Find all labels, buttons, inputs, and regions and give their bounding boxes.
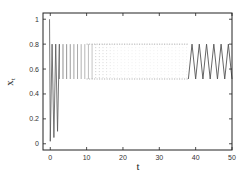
chart: 01020304050 00.20.40.60.81 t xt <box>0 0 248 173</box>
y-tick-label: 0 <box>35 140 39 147</box>
transient-line <box>50 19 60 141</box>
x-tick-label: 0 <box>48 154 52 161</box>
y-tick-label: 0.8 <box>29 41 39 48</box>
y-tick-label: 0.2 <box>29 115 39 122</box>
y-tick-label: 0.6 <box>29 66 39 73</box>
x-tick-label: 40 <box>192 154 200 161</box>
y-axis-ticks: 00.20.40.60.81 <box>29 16 232 148</box>
y-tick-label: 1 <box>35 16 39 23</box>
plot-lines <box>50 19 232 141</box>
zigzag-line <box>188 44 232 79</box>
x-tick-label: 20 <box>119 154 127 161</box>
x-tick-label: 50 <box>228 154 236 161</box>
x-axis-ticks: 01020304050 <box>48 13 236 161</box>
y-tick-label: 0.4 <box>29 90 39 97</box>
y-axis-label: xt <box>3 78 17 86</box>
plot-frame <box>43 13 232 150</box>
x-tick-label: 10 <box>83 154 91 161</box>
x-axis-label: t <box>136 160 139 172</box>
x-tick-label: 30 <box>155 154 163 161</box>
